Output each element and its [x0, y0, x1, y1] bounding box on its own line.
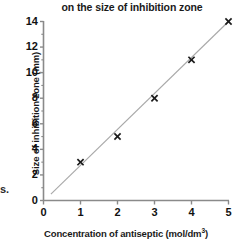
- y-tick-label: 8: [22, 91, 38, 103]
- y-tick-label: 4: [22, 142, 38, 154]
- x-tick-label: 1: [74, 206, 88, 218]
- trend-line-segment: [51, 22, 229, 195]
- data-point: [225, 18, 231, 24]
- y-tick-label: 10: [22, 66, 38, 78]
- data-point: [114, 133, 120, 139]
- chart-figure: on the size of inhibition zone s. Size o…: [0, 0, 234, 248]
- y-tick-label: 6: [22, 117, 38, 129]
- data-point: [77, 159, 83, 165]
- y-tick-label: 0: [22, 194, 38, 206]
- data-point: [151, 95, 157, 101]
- best-fit-line: [51, 22, 229, 195]
- x-tick-label: 4: [185, 206, 199, 218]
- y-tick-label: 2: [22, 168, 38, 180]
- x-tick-label: 0: [37, 206, 51, 218]
- x-tick-label: 3: [148, 206, 162, 218]
- y-tick-label: 12: [22, 40, 38, 52]
- y-tick-label: 14: [22, 15, 38, 27]
- x-tick-label: 5: [222, 206, 235, 218]
- x-tick-label: 2: [111, 206, 125, 218]
